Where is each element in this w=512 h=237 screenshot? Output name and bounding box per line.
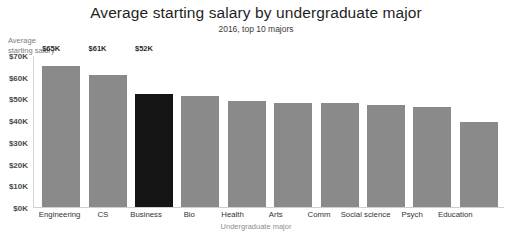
chart-title: Average starting salary by undergraduate… bbox=[0, 4, 512, 22]
x-axis-tick: CS bbox=[81, 210, 124, 219]
bar-slot bbox=[363, 56, 409, 207]
bar-slot bbox=[270, 56, 316, 207]
bar-slot bbox=[456, 56, 502, 207]
bar-value-label: $65K bbox=[42, 44, 60, 53]
bar[interactable] bbox=[274, 103, 312, 207]
plot-area: $70K$60K$50K$40K$30K$20K$10K$0K $65K$61K… bbox=[33, 56, 504, 208]
bar[interactable] bbox=[321, 103, 359, 207]
x-axis-tick: Education bbox=[434, 210, 477, 219]
bar-value-label: $61K bbox=[89, 44, 107, 53]
x-axis-tick: Business bbox=[124, 210, 167, 219]
bar[interactable] bbox=[181, 96, 219, 207]
x-axis-tick: Social science bbox=[341, 210, 391, 219]
x-axis-tick: Psych bbox=[390, 210, 433, 219]
bar[interactable] bbox=[367, 105, 405, 207]
bar-slot bbox=[409, 56, 455, 207]
y-axis-tick: $40K bbox=[9, 117, 28, 126]
bar-slot bbox=[316, 56, 362, 207]
bar-slot bbox=[224, 56, 270, 207]
y-axis-tick: $10K bbox=[9, 182, 28, 191]
y-axis-tick: $0K bbox=[13, 204, 28, 213]
x-axis-tick: Engineering bbox=[38, 210, 81, 219]
bar[interactable]: $65K bbox=[42, 66, 80, 207]
bar-series: $65K$61K$52K bbox=[38, 56, 502, 207]
bar[interactable] bbox=[228, 101, 266, 207]
bar-value-label: $52K bbox=[135, 44, 153, 53]
y-axis-tick: $50K bbox=[9, 95, 28, 104]
bar[interactable] bbox=[413, 107, 451, 207]
bar[interactable]: $61K bbox=[89, 75, 127, 207]
x-axis-tick: Comm bbox=[297, 210, 340, 219]
bar-slot: $52K bbox=[131, 56, 177, 207]
x-axis-tick: Health bbox=[211, 210, 254, 219]
bar-slot: $65K bbox=[38, 56, 84, 207]
x-axis-tick: Bio bbox=[168, 210, 211, 219]
y-axis-tick: $30K bbox=[9, 138, 28, 147]
y-axis-line bbox=[33, 56, 34, 208]
bar[interactable] bbox=[460, 122, 498, 207]
x-axis-title: Undergraduate major bbox=[0, 222, 512, 231]
y-axis-tick: $20K bbox=[9, 160, 28, 169]
bar-slot bbox=[177, 56, 223, 207]
y-axis-tick: $60K bbox=[9, 73, 28, 82]
x-axis-tick: Arts bbox=[254, 210, 297, 219]
y-axis-tick: $70K bbox=[9, 52, 28, 61]
bar-slot: $61K bbox=[84, 56, 130, 207]
x-axis-tick-labels: EngineeringCSBusinessBioHealthArtsCommSo… bbox=[38, 210, 477, 219]
chart-subtitle: 2016, top 10 majors bbox=[0, 24, 512, 34]
bar[interactable]: $52K bbox=[135, 94, 173, 207]
x-axis-line bbox=[33, 207, 504, 208]
